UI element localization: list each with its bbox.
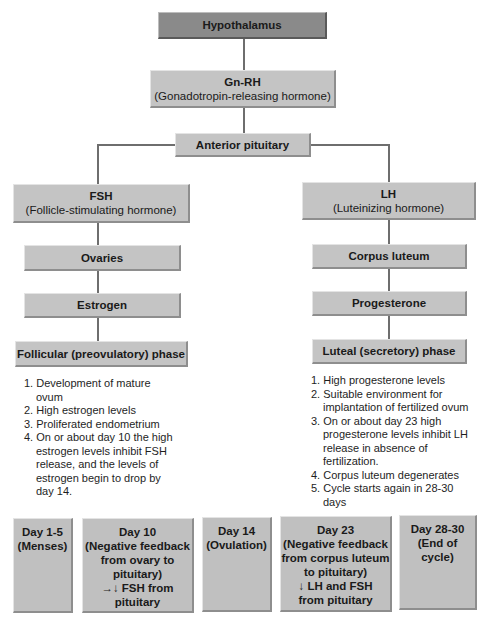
connector-corpus-progesterone	[388, 268, 390, 292]
estrogen-box: Estrogen	[24, 293, 181, 318]
connector-gnrh-pituitary	[243, 106, 245, 134]
lh-box: LH (Luteinizing hormone)	[302, 182, 476, 220]
day-line: pituitary	[83, 595, 192, 609]
ovaries-label: Ovaries	[81, 251, 123, 265]
progesterone-label: Progesterone	[352, 296, 426, 310]
connector-pituitary-left	[97, 144, 175, 146]
gnrh-title: Gn-RH	[224, 75, 260, 89]
day-line: Day 14	[203, 524, 270, 538]
day-line: (Negative feedback	[83, 539, 192, 553]
day-line: from corpus luteum	[281, 551, 390, 565]
day-line: Day 28-30	[400, 522, 475, 536]
list-item: 4. On or about day 10 the high estrogen …	[24, 431, 174, 499]
anterior-pituitary-box: Anterior pituitary	[175, 133, 311, 157]
day-box-10: Day 10 (Negative feedback from ovary to …	[82, 518, 194, 613]
day-line: ↓ LH and FSH	[281, 579, 390, 593]
list-item: 2. High estrogen levels	[24, 404, 174, 418]
day-line: Day 10	[83, 525, 192, 539]
list-item: 1. Development of mature ovum	[24, 377, 174, 404]
follicular-phase-label: Follicular (preovulatory) phase	[17, 347, 185, 361]
gnrh-box: Gn-RH (Gonadotropin-releasing hormone)	[150, 70, 336, 108]
lh-subtitle: (Luteinizing hormone)	[333, 201, 444, 215]
gnrh-subtitle: (Gonadotropin-releasing hormone)	[154, 89, 330, 103]
day-line: →↓ FSH from	[83, 581, 192, 595]
luteal-phase-label: Luteal (secretory) phase	[323, 344, 456, 358]
connector-pituitary-right	[310, 144, 390, 146]
day-box-23: Day 23 (Negative feedback from corpus lu…	[280, 516, 392, 612]
fsh-title: FSH	[90, 189, 113, 203]
corpus-luteum-label: Corpus luteum	[348, 249, 429, 263]
lh-title: LH	[381, 187, 396, 201]
connector-estrogen-phase	[97, 317, 99, 341]
follicular-phase-list: 1. Development of mature ovum 2. High es…	[24, 377, 174, 499]
fsh-subtitle: (Follicle-stimulating hormone)	[26, 203, 177, 217]
luteal-phase-box: Luteal (secretory) phase	[312, 339, 467, 364]
connector-hypothalamus-gnrh	[243, 37, 245, 71]
day-line: Day 23	[281, 523, 390, 537]
fsh-box: FSH (Follicle-stimulating hormone)	[13, 184, 190, 223]
day-line: Day 1-5	[14, 525, 71, 539]
connector-right-down	[388, 144, 390, 183]
connector-lh-corpus	[388, 218, 390, 244]
day-line: pituitary)	[83, 567, 192, 581]
ovaries-box: Ovaries	[24, 245, 181, 271]
estrogen-label: Estrogen	[77, 298, 127, 312]
list-item: 3. Proliferated endometrium	[24, 418, 174, 432]
list-item: 2. Suitable environment for implantation…	[311, 388, 471, 415]
day-line: (Menses)	[14, 539, 71, 553]
day-line: (Ovulation)	[203, 538, 270, 552]
list-item: 5. Cycle starts again in 28-30 days	[311, 482, 471, 509]
follicular-phase-box: Follicular (preovulatory) phase	[15, 341, 188, 367]
day-box-14: Day 14 (Ovulation)	[202, 517, 272, 612]
connector-progesterone-phase	[388, 315, 390, 339]
connector-left-down	[97, 144, 99, 185]
list-item: 1. High progesterone levels	[311, 374, 471, 388]
day-line: from pituitary	[281, 593, 390, 607]
list-item: 3. On or about day 23 high progesterone …	[311, 415, 471, 469]
connector-fsh-ovaries	[97, 222, 99, 246]
day-box-28-30: Day 28-30 (End of cycle)	[399, 515, 477, 610]
connector-ovaries-estrogen	[97, 270, 99, 294]
day-box-1-5: Day 1-5 (Menses)	[13, 518, 73, 613]
day-line: (End of cycle)	[400, 536, 475, 564]
day-line: from ovary to	[83, 553, 192, 567]
hypothalamus-box: Hypothalamus	[158, 12, 327, 39]
anterior-pituitary-label: Anterior pituitary	[196, 138, 289, 152]
progesterone-box: Progesterone	[312, 291, 467, 316]
day-line: (Negative feedback	[281, 537, 390, 551]
day-line: to pituitary)	[281, 565, 390, 579]
hypothalamus-label: Hypothalamus	[202, 18, 281, 32]
list-item: 4. Corpus luteum degenerates	[311, 469, 471, 483]
luteal-phase-list: 1. High progesterone levels 2. Suitable …	[311, 374, 471, 509]
corpus-luteum-box: Corpus luteum	[312, 244, 467, 269]
